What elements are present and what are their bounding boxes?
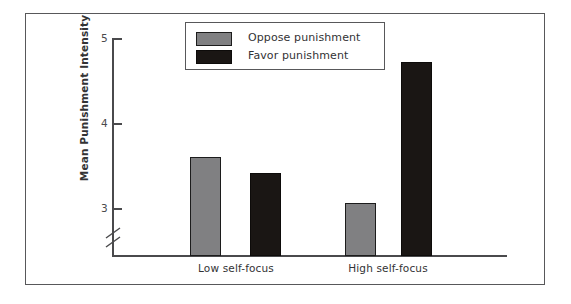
bar-low-self-focus-favor: [250, 173, 281, 256]
legend: Oppose punishment Favor punishment: [185, 22, 385, 70]
bar-low-self-focus-oppose: [190, 157, 221, 256]
y-tick-5: [113, 38, 122, 40]
category-label-low-self-focus: Low self-focus: [156, 262, 316, 274]
legend-label-oppose: Oppose punishment: [248, 31, 361, 44]
y-tick-label-5: 5: [86, 32, 108, 44]
y-tick-label-4: 4: [86, 117, 108, 129]
legend-swatch-oppose-icon: [196, 32, 232, 46]
y-tick-3: [113, 208, 122, 210]
bar-high-self-focus-oppose: [345, 203, 376, 256]
legend-label-favor: Favor punishment: [248, 49, 348, 62]
legend-swatch-favor-icon: [196, 50, 232, 64]
figure: Mean Punishment Intensity 5 4 3 Low self…: [0, 0, 571, 304]
x-axis-line: [112, 255, 507, 257]
bar-high-self-focus-favor: [401, 62, 432, 256]
plot-area: Mean Punishment Intensity 5 4 3 Low self…: [0, 0, 571, 304]
y-tick-4: [113, 123, 122, 125]
axis-break-icon: [104, 226, 122, 250]
y-tick-label-3: 3: [86, 202, 108, 214]
category-label-high-self-focus: High self-focus: [308, 262, 468, 274]
y-axis-line: [112, 38, 114, 256]
